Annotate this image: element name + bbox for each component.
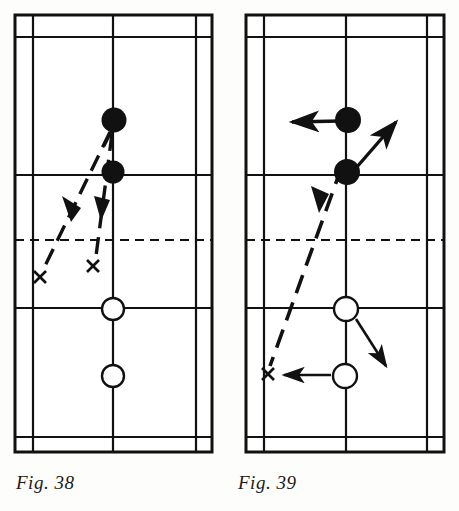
opponent-back-marker	[102, 161, 125, 184]
opponent-front-move-left-arrow	[292, 121, 340, 122]
badminton-court-diagram-39	[230, 0, 459, 470]
figure-39: Fig. 39	[230, 0, 459, 511]
player-back-marker	[333, 364, 357, 388]
badminton-court-diagram-38	[0, 0, 230, 470]
player-front-marker	[102, 298, 124, 320]
opponent-back-marker	[334, 159, 360, 185]
opponent-front-marker	[102, 108, 127, 133]
figure-caption-39: Fig. 39	[230, 472, 459, 494]
player-front-marker	[334, 297, 358, 321]
player-back-marker	[102, 365, 124, 387]
figure-page: Fig. 38	[0, 0, 459, 511]
opponent-front-marker	[335, 107, 361, 133]
figure-caption-38: Fig. 38	[0, 472, 246, 494]
figure-38: Fig. 38	[0, 0, 230, 511]
